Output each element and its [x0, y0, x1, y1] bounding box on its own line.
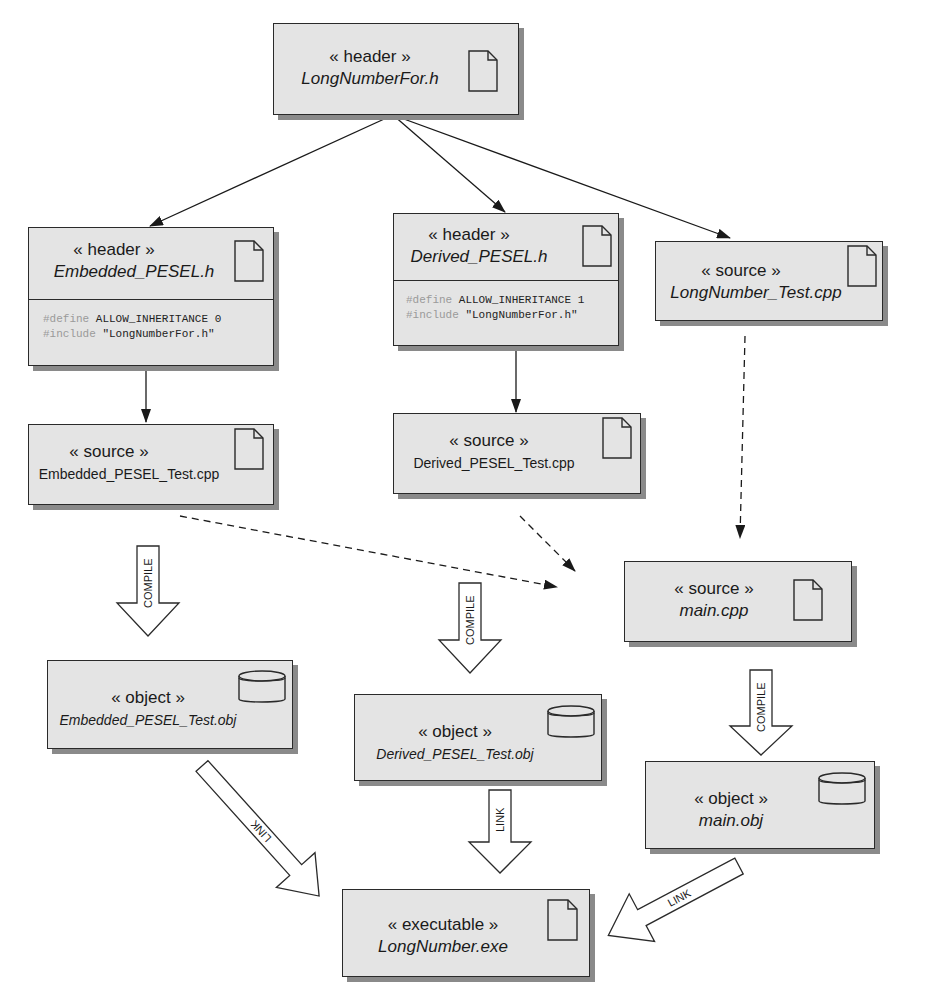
artifact-name: LongNumberFor.h	[274, 68, 466, 90]
artifact-name: Derived_PESEL_Test.obj	[355, 743, 555, 765]
stereotype-label: « source »	[384, 430, 594, 452]
artifact-name: Derived_PESEL.h	[394, 246, 564, 268]
file-icon	[793, 579, 823, 621]
edge-embeddedtest-to-main	[180, 516, 557, 587]
stereotype-label: « executable »	[343, 914, 543, 936]
stereotype-label: « object »	[646, 788, 816, 810]
artifact-name: main.obj	[646, 810, 816, 832]
stereotype-label: « source »	[625, 578, 803, 600]
artifact-name: main.cpp	[625, 600, 803, 622]
build-diagram: COMPILE COMPILE COMPILE LINK LINK LINK «…	[0, 0, 952, 1006]
edge-longnumberfor-to-embedded	[150, 115, 393, 226]
file-icon	[468, 50, 498, 92]
file-icon	[234, 428, 264, 470]
artifact-name: LongNumber_Test.cpp	[656, 282, 856, 304]
artifact-name: LongNumber.exe	[343, 936, 543, 958]
node-derived-pesel-test-cpp: « source » Derived_PESEL_Test.cpp	[393, 413, 641, 494]
file-icon	[847, 245, 877, 287]
node-longnumberfor-h: « header » LongNumberFor.h	[273, 23, 519, 115]
stereotype-label: « source »	[626, 260, 856, 282]
file-icon	[234, 240, 264, 282]
database-icon	[238, 669, 286, 707]
compile-arrow-embedded: COMPILE	[117, 546, 179, 636]
node-embedded-pesel-test-cpp: « source » Embedded_PESEL_Test.cpp	[28, 424, 274, 505]
artifact-name: Embedded_PESEL_Test.cpp	[29, 463, 229, 485]
node-embedded-pesel-h: « header » Embedded_PESEL.h #define ALLO…	[28, 227, 274, 366]
compile-arrow-derived: COMPILE	[439, 583, 501, 673]
node-main-cpp: « source » main.cpp	[624, 561, 852, 642]
edge-derivedtest-to-main	[520, 516, 575, 571]
compile-arrow-main: COMPILE	[730, 670, 792, 755]
database-icon	[818, 771, 866, 809]
node-embedded-pesel-test-obj: « object » Embedded_PESEL_Test.obj	[47, 660, 293, 749]
stereotype-label: « header »	[374, 224, 564, 246]
node-longnumber-exe: « executable » LongNumber.exe	[342, 889, 590, 977]
stereotype-label: « header »	[274, 46, 466, 68]
svg-text:LINK: LINK	[248, 818, 274, 845]
database-icon	[547, 704, 595, 742]
link-arrow-embedded: LINK	[183, 749, 339, 914]
edge-longnumbertest-to-main	[740, 336, 745, 538]
svg-text:LINK: LINK	[494, 807, 506, 832]
artifact-name: Derived_PESEL_Test.cpp	[394, 452, 594, 474]
link-arrow-main: LINK	[596, 842, 752, 959]
link-arrow-derived: LINK	[469, 790, 531, 873]
node-longnumber-test-cpp: « source » LongNumber_Test.cpp	[655, 241, 883, 321]
code-compartment: #define ALLOW_INHERITANCE 0#include "Lon…	[29, 300, 273, 342]
svg-text:LINK: LINK	[666, 886, 694, 908]
stereotype-label: « object »	[48, 687, 248, 709]
code-compartment: #define ALLOW_INHERITANCE 1#include "Lon…	[394, 281, 618, 323]
stereotype-label: « source »	[0, 441, 229, 463]
node-derived-pesel-test-obj: « object » Derived_PESEL_Test.obj	[354, 694, 602, 781]
svg-text:COMPILE: COMPILE	[464, 595, 476, 645]
file-icon	[602, 417, 632, 459]
node-derived-pesel-h: « header » Derived_PESEL.h #define ALLOW…	[393, 213, 619, 346]
artifact-name: Embedded_PESEL_Test.obj	[48, 709, 248, 731]
file-icon	[582, 225, 612, 267]
svg-text:COMPILE: COMPILE	[142, 558, 154, 608]
artifact-name: Embedded_PESEL.h	[29, 261, 239, 283]
edge-longnumberfor-to-derived	[393, 115, 505, 212]
file-icon	[547, 899, 578, 941]
stereotype-label: « header »	[0, 239, 239, 261]
node-main-obj: « object » main.obj	[645, 761, 875, 849]
stereotype-label: « object »	[355, 721, 555, 743]
svg-text:COMPILE: COMPILE	[755, 682, 767, 732]
